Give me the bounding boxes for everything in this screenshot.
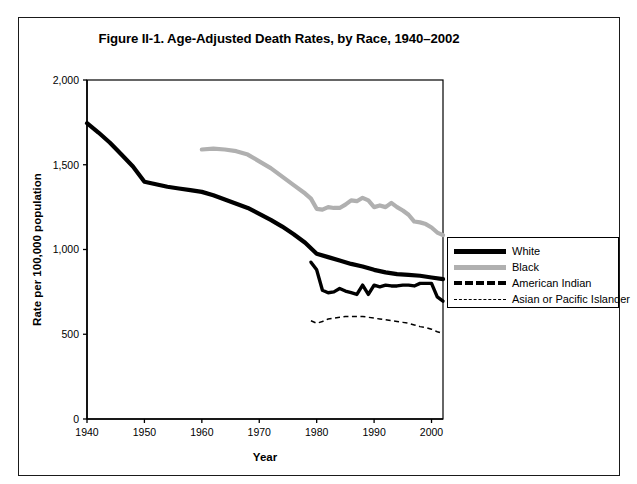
series-line-asian-or-pacific-islander bbox=[311, 316, 443, 333]
y-tick-label: 2,000 bbox=[53, 74, 79, 86]
legend-item-asian-pacific-islander: Asian or Pacific Islander bbox=[448, 291, 618, 307]
legend-item-black: Black bbox=[448, 259, 618, 275]
legend-label-black: Black bbox=[512, 261, 539, 273]
series-line-white bbox=[87, 123, 443, 279]
legend-label-american-indian: American Indian bbox=[512, 277, 592, 289]
legend-swatch-white-icon bbox=[454, 245, 506, 257]
x-tick-label: 1970 bbox=[248, 426, 272, 438]
series-line-american-indian bbox=[311, 262, 443, 301]
figure-frame: Figure II-1. Age-Adjusted Death Rates, b… bbox=[18, 17, 620, 476]
legend-label-asian-pacific-islander: Asian or Pacific Islander bbox=[512, 293, 630, 305]
x-tick-label: 1990 bbox=[362, 426, 386, 438]
legend-label-white: White bbox=[512, 245, 540, 257]
axes-layer: 05001,0001,5002,000194019501960197019801… bbox=[53, 74, 444, 438]
legend-swatch-black-icon bbox=[454, 261, 506, 273]
y-tick-label: 1,000 bbox=[53, 243, 79, 255]
legend-swatch-asian-pacific-islander-icon bbox=[454, 293, 506, 305]
series-line-black bbox=[202, 149, 443, 235]
y-axis-title: Rate per 100,000 population bbox=[31, 173, 43, 326]
x-tick-label: 1960 bbox=[190, 426, 214, 438]
chart-legend: White Black American Indian Asian or Pac… bbox=[447, 237, 619, 308]
x-axis-title: Year bbox=[253, 451, 278, 463]
y-tick-label: 500 bbox=[61, 328, 79, 340]
x-tick-label: 1980 bbox=[305, 426, 329, 438]
x-tick-label: 1950 bbox=[133, 426, 157, 438]
x-tick-label: 1940 bbox=[75, 426, 99, 438]
legend-swatch-american-indian-icon bbox=[454, 277, 506, 289]
legend-item-american-indian: American Indian bbox=[448, 275, 618, 291]
y-tick-label: 0 bbox=[73, 413, 79, 425]
legend-item-white: White bbox=[448, 243, 618, 259]
series-layer bbox=[87, 123, 443, 333]
y-tick-label: 1,500 bbox=[53, 159, 79, 171]
x-tick-label: 2000 bbox=[420, 426, 444, 438]
